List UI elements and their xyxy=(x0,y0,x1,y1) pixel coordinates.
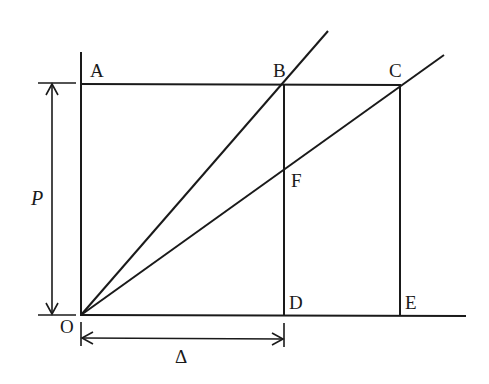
label-d: D xyxy=(289,292,303,313)
label-c: C xyxy=(389,60,402,81)
horizontal-axis xyxy=(81,315,466,316)
ray-oc xyxy=(81,55,444,315)
label-delta: Δ xyxy=(175,346,187,367)
label-f: F xyxy=(291,170,302,191)
label-b: B xyxy=(273,60,286,81)
top-line-ac xyxy=(81,84,401,85)
label-e: E xyxy=(405,292,417,313)
label-o: O xyxy=(60,316,74,337)
geometry-diagram: A B C F D E O P Δ xyxy=(0,0,489,384)
label-p: P xyxy=(30,187,43,209)
label-a: A xyxy=(90,60,104,81)
delta-dimension-line xyxy=(82,338,283,339)
